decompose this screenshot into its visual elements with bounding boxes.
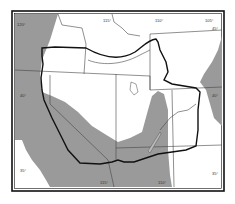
label-top-lon-3: 105° bbox=[205, 18, 214, 23]
label-left-lat: 40° bbox=[20, 93, 26, 98]
label-left-lat-bottom: 35° bbox=[20, 168, 26, 173]
label-right-lat: 40° bbox=[212, 93, 218, 98]
label-top-lon-2: 110° bbox=[155, 18, 163, 23]
label-right-lat-top: 45° bbox=[212, 26, 218, 31]
label-bottom-lon-1: 115° bbox=[100, 180, 108, 185]
map: 115° 110° 105° 120° 45° 40° 40° 35° 35° … bbox=[0, 0, 235, 204]
label-top-lon-1: 115° bbox=[103, 18, 111, 23]
label-right-lat-bottom: 35° bbox=[212, 171, 218, 176]
label-bottom-lon-2: 110° bbox=[158, 180, 166, 185]
label-left-lon: 120° bbox=[17, 22, 26, 27]
